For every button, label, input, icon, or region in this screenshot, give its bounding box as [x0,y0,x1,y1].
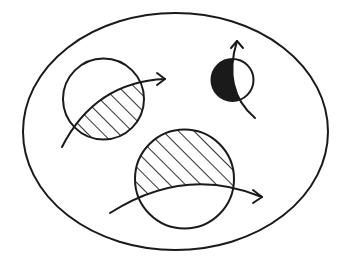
arrowhead-bottom-icon [253,190,262,203]
curved-arrow-small-right [232,41,255,118]
circle-small-right-group [200,41,255,118]
curved-arrow-bottom [110,184,262,213]
circle-bottom-group [110,120,262,229]
circle-top-left-group [40,59,165,161]
diagram-svg [0,0,350,262]
solid-region-small-right [200,41,255,118]
hatched-region-bottom [110,120,262,213]
diagram-canvas: Large ellipse containing three circles, … [0,0,350,262]
